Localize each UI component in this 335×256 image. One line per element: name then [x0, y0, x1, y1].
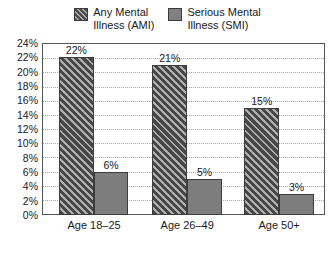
x-axis: Age 18–25 Age 26–49 Age 50+ [42, 219, 325, 239]
y-axis-tick: 24% [17, 38, 38, 49]
x-axis-tick-age-26-49: Age 26–49 [161, 219, 214, 232]
y-axis-tick: 6% [23, 167, 38, 178]
bar-smi-age-26-49[interactable]: 5% [187, 179, 222, 215]
y-axis-tick: 20% [17, 66, 38, 77]
bar-group-age-18-25: 22% 6% [59, 43, 136, 215]
x-axis-tick-age-50-plus: Age 50+ [258, 219, 299, 232]
legend-swatch-hatch-icon [74, 8, 88, 21]
bar-ami-age-26-49[interactable]: 21% [152, 65, 187, 216]
bar-value-label: 15% [251, 96, 272, 107]
bar-ami-age-50-plus[interactable]: 15% [244, 108, 279, 216]
y-axis-tick: 4% [23, 181, 38, 192]
bar-value-label: 21% [159, 53, 180, 64]
y-axis-tick: 0% [23, 210, 38, 221]
bar-group-age-26-49: 21% 5% [152, 43, 229, 215]
bars-layer: 22% 6% 21% 5% 15% 3% [42, 43, 325, 215]
chart-legend: Any Mental Illness (AMI) Serious Mental … [0, 6, 335, 31]
bar-chart: Any Mental Illness (AMI) Serious Mental … [0, 0, 335, 256]
legend-swatch-solid-icon [168, 8, 182, 21]
bar-smi-age-50-plus[interactable]: 3% [279, 194, 314, 216]
y-axis-tick: 14% [17, 109, 38, 120]
y-axis: 24% 22% 20% 18% 16% 14% 12% 10% 8% 6% 4%… [0, 43, 38, 215]
y-axis-tick: 8% [23, 152, 38, 163]
y-axis-tick: 18% [17, 81, 38, 92]
x-axis-tick-age-18-25: Age 18–25 [67, 219, 120, 232]
bar-value-label: 6% [104, 160, 119, 171]
legend-item-ami: Any Mental Illness (AMI) [74, 6, 154, 31]
y-axis-tick: 22% [17, 52, 38, 63]
bar-value-label: 5% [197, 167, 212, 178]
bar-group-age-50-plus: 15% 3% [244, 43, 321, 215]
y-axis-tick: 12% [17, 124, 38, 135]
bar-value-label: 3% [289, 182, 304, 193]
legend-item-smi: Serious Mental Illness (SMI) [168, 6, 260, 31]
legend-label-smi: Serious Mental Illness (SMI) [187, 6, 260, 31]
legend-label-ami: Any Mental Illness (AMI) [93, 6, 154, 31]
y-axis-tick: 16% [17, 95, 38, 106]
y-axis-tick: 2% [23, 195, 38, 206]
bar-ami-age-18-25[interactable]: 22% [59, 57, 94, 215]
y-axis-tick: 10% [17, 138, 38, 149]
bar-smi-age-18-25[interactable]: 6% [94, 172, 129, 215]
bar-value-label: 22% [66, 45, 87, 56]
